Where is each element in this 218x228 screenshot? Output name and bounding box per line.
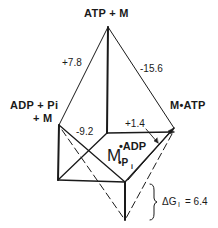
delta-g-symbol: ΔG (162, 196, 176, 207)
node-m-atp: M•ATP (170, 99, 206, 111)
delta-g-subscript: I (178, 201, 180, 208)
node-atp-m: ATP + M (84, 7, 129, 19)
edge-label-back-right: +1.4 (125, 118, 145, 129)
edge-label-top-left: +7.8 (62, 57, 82, 68)
node-center-pi: •P (118, 157, 128, 168)
delta-g-value: = 6.4 (185, 196, 208, 207)
node-center-pi-subscript: i (131, 163, 133, 170)
node-adp-pi-m-line2: + M (33, 112, 53, 124)
node-adp-pi-m-line1: ADP + Pi (10, 99, 58, 111)
node-center-adp: •ADP (119, 140, 146, 152)
edge-label-top-right: -15.6 (140, 63, 163, 74)
edge-label-left-back: -9.2 (76, 126, 93, 137)
